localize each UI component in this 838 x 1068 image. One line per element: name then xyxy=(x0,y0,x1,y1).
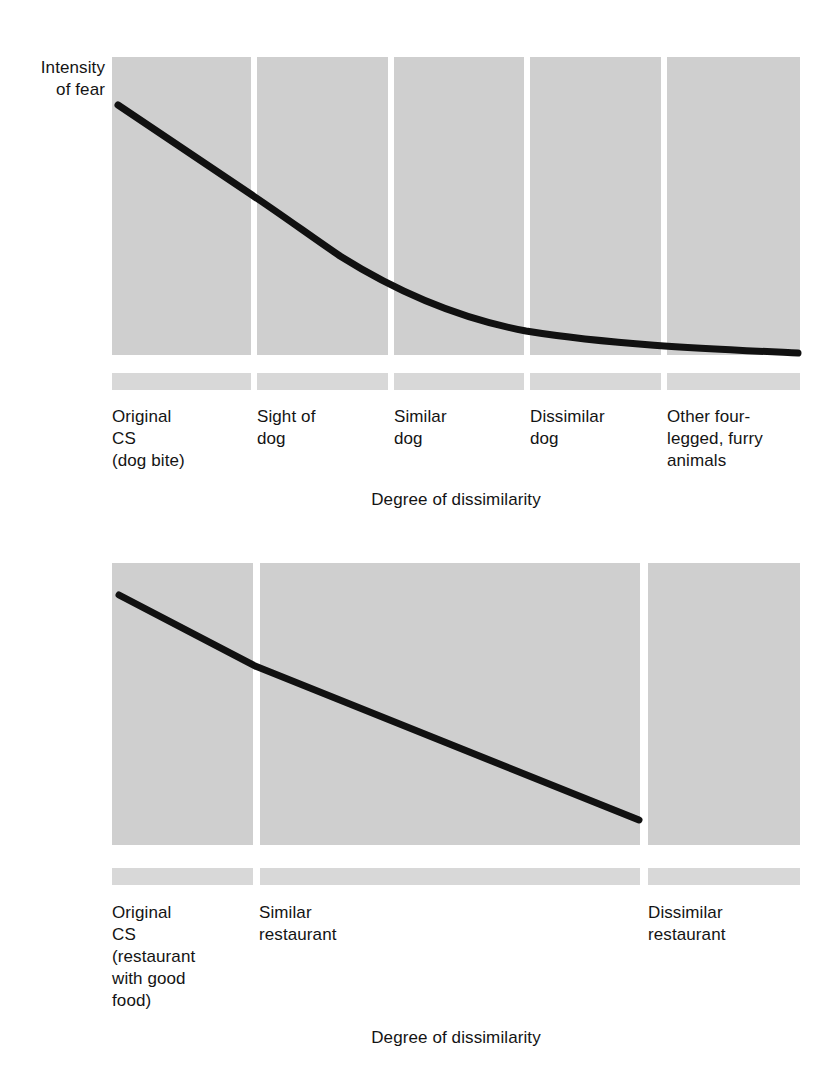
strip-segment-1 xyxy=(112,373,251,390)
strip-segment-1 xyxy=(112,868,253,885)
strip-segment-2 xyxy=(257,373,388,390)
category-label-1: Original CS (restaurant with good food) xyxy=(112,902,257,1012)
strip-segment-5 xyxy=(667,373,800,390)
category-label-3: Dissimilar restaurant xyxy=(648,902,828,946)
plot-area xyxy=(112,563,800,845)
generalization-curve xyxy=(112,57,800,355)
category-strip xyxy=(112,868,800,885)
category-label-5: Other four- legged, furry animals xyxy=(667,406,832,472)
category-label-2: Similar restaurant xyxy=(259,902,459,946)
category-label-3: Similar dog xyxy=(394,406,529,450)
chart-fear-generalization-dog: Intensity of fear Original CS (dog bite)… xyxy=(0,0,838,520)
strip-segment-3 xyxy=(648,868,800,885)
category-label-1: Original CS (dog bite) xyxy=(112,406,252,472)
category-strip xyxy=(112,373,800,390)
x-axis-title: Degree of dissimilarity xyxy=(112,1028,800,1048)
strip-segment-2 xyxy=(260,868,640,885)
plot-area xyxy=(112,57,800,355)
category-label-2: Sight of dog xyxy=(257,406,392,450)
generalization-curve xyxy=(112,563,800,845)
chart-fear-generalization-restaurant: Original CS (restaurant with good food) … xyxy=(0,520,838,1068)
strip-segment-3 xyxy=(394,373,524,390)
category-label-4: Dissimilar dog xyxy=(530,406,670,450)
strip-segment-4 xyxy=(530,373,661,390)
y-axis-label: Intensity of fear xyxy=(0,57,105,101)
x-axis-title: Degree of dissimilarity xyxy=(112,490,800,510)
figure-stimulus-generalization: Intensity of fear Original CS (dog bite)… xyxy=(0,0,838,1068)
